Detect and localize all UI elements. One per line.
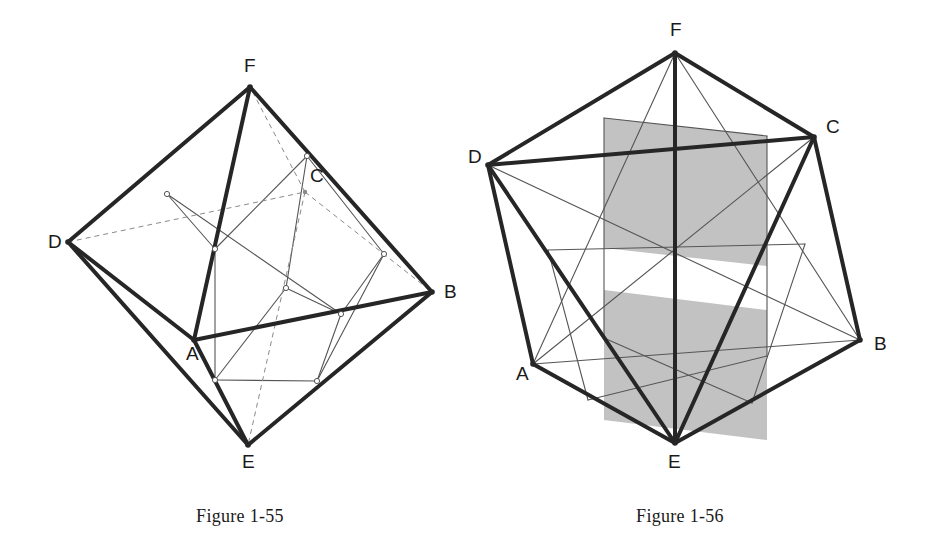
- figure-1-55-group: ABCDEF: [48, 55, 457, 472]
- vertex-dot-D: [65, 239, 71, 245]
- shaded-region-upper-cross-section: [604, 118, 767, 266]
- vertex-dot-E: [245, 442, 251, 448]
- vertex-label-F: F: [670, 19, 682, 40]
- vertex-dot-C: [811, 134, 817, 140]
- vertex-label-E: E: [668, 451, 681, 472]
- hull-edge-AB: [194, 292, 432, 340]
- cube-edge: [167, 194, 341, 314]
- vertex-dot-A: [191, 337, 197, 343]
- cube-vertex-node: [212, 246, 217, 251]
- vertex-dot-B: [857, 337, 863, 343]
- vertex-dot-E: [672, 440, 678, 446]
- vertex-label-C: C: [826, 116, 840, 137]
- figure-plate: ABCDEF ABCDEF Figure 1-55Figure 1-56: [0, 0, 925, 549]
- hull-edge-AD: [488, 165, 533, 364]
- caption-figure-1-55: Figure 1-55: [196, 506, 284, 526]
- vertex-label-D: D: [468, 146, 482, 167]
- figures-canvas: ABCDEF ABCDEF Figure 1-55Figure 1-56: [0, 0, 925, 549]
- hidden-edge-CB: [305, 192, 432, 292]
- cube-vertex-node: [304, 153, 309, 158]
- cube-vertex-node: [338, 311, 343, 316]
- cube-vertex-node: [283, 285, 288, 290]
- vertex-dot-F: [672, 50, 678, 56]
- figure-1-56-group: ABCDEF: [468, 19, 887, 472]
- vertex-label-A: A: [186, 343, 199, 364]
- cube-edge: [215, 380, 317, 381]
- captions-group: Figure 1-55Figure 1-56: [196, 506, 724, 526]
- hull-edge-FC: [675, 53, 814, 137]
- hull-edge-DA: [68, 242, 194, 340]
- vertex-label-F: F: [244, 55, 256, 76]
- caption-figure-1-56: Figure 1-56: [636, 506, 724, 526]
- vertex-dot-D: [485, 162, 491, 168]
- cube-vertex-node: [314, 378, 319, 383]
- cube-vertex-node: [164, 191, 169, 196]
- vertex-dot-C: [303, 190, 307, 194]
- vertex-dot-F: [247, 84, 253, 90]
- hull-edge-ED: [68, 242, 248, 445]
- vertex-label-A: A: [516, 363, 529, 384]
- vertex-label-B: B: [444, 281, 457, 302]
- hull-edge-FB: [250, 87, 432, 292]
- vertex-label-B: B: [874, 333, 887, 354]
- vertex-dot-B: [429, 289, 435, 295]
- vertex-dot-A: [530, 361, 536, 367]
- cube-edge: [215, 156, 307, 249]
- vertex-label-D: D: [48, 231, 62, 252]
- cube-vertex-node: [212, 377, 217, 382]
- hidden-edge-DC: [68, 192, 305, 242]
- vertex-label-E: E: [242, 451, 255, 472]
- vertex-label-C: C: [310, 165, 324, 186]
- cube-vertex-node: [381, 251, 386, 256]
- hull-edge-CB: [814, 137, 860, 340]
